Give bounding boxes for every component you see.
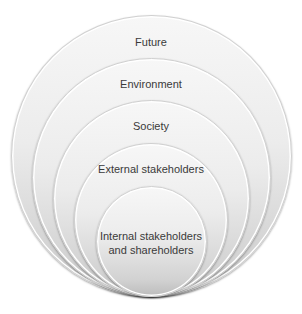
- label-internal-stakeholders-line1: Internal stakeholders: [0, 230, 302, 243]
- label-internal-stakeholders-line2: and shareholders: [0, 244, 302, 257]
- label-future: Future: [0, 36, 302, 49]
- label-environment: Environment: [0, 78, 302, 91]
- label-society: Society: [0, 120, 302, 133]
- label-external-stakeholders: External stakeholders: [0, 163, 302, 176]
